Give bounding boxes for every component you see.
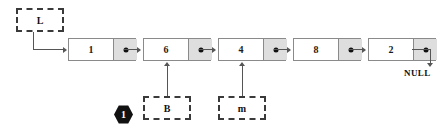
node-value: 1: [89, 44, 94, 55]
node-value: 6: [164, 44, 169, 55]
pointer-box-head: L: [16, 8, 64, 32]
link-1-to-2-arrowhead: [137, 47, 141, 53]
step-badge-label: 1: [121, 109, 126, 120]
head-connector-arrowhead: [63, 47, 67, 53]
link-3-to-4-arrowhead: [287, 47, 291, 53]
node-value: 4: [239, 44, 244, 55]
node-data-cell: 6: [144, 39, 188, 60]
node-data-cell: 8: [294, 39, 338, 60]
head-connector-vertical: [33, 32, 34, 50]
linked-list-diagram: L 1 6 4 8: [0, 0, 444, 130]
pointer-b-connector: [167, 65, 168, 96]
node-data-cell: 1: [69, 39, 113, 60]
node-data-cell: 4: [219, 39, 263, 60]
pointer-box-m-label: m: [238, 103, 246, 114]
pointer-box-head-label: L: [37, 15, 44, 26]
null-label-text: NULL: [404, 68, 431, 78]
pointer-box-b: B: [143, 96, 191, 120]
link-4-to-5-arrowhead: [362, 47, 366, 53]
link-2-to-3-arrowhead: [212, 47, 216, 53]
pointer-box-m: m: [218, 96, 266, 120]
node-value: 8: [314, 44, 319, 55]
pointer-box-b-label: B: [164, 103, 171, 114]
null-connector-horizontal: [412, 49, 431, 50]
null-label: NULL: [404, 68, 431, 78]
head-connector-horizontal: [33, 49, 63, 50]
null-connector-arrowhead: [427, 63, 433, 67]
null-connector-vertical: [430, 49, 431, 64]
step-badge: 1: [114, 105, 133, 124]
node-data-cell: 2: [369, 39, 413, 60]
node-value: 2: [389, 44, 394, 55]
pointer-m-connector: [242, 65, 243, 96]
